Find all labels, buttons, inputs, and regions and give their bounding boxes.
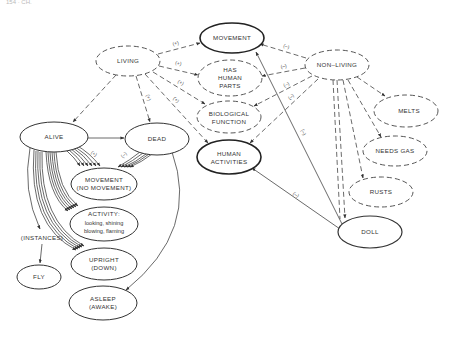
svg-text:(INSTANCES): (INSTANCES) <box>21 234 63 241</box>
edge-label-living-human-activities: (+) <box>172 95 181 104</box>
svg-text:ALIVE: ALIVE <box>44 133 63 140</box>
node-fly: FLY <box>17 265 61 289</box>
svg-text:looking, shining: looking, shining <box>85 220 124 226</box>
node-instances: (INSTANCES) <box>21 234 63 241</box>
node-movement-no-movement: MOVEMENT (NO MOVEMENT) <box>71 168 137 200</box>
svg-text:(AWAKE): (AWAKE) <box>89 303 117 310</box>
semantic-network-diagram: 154 · CH. <box>0 0 455 337</box>
svg-text:UPRIGHT: UPRIGHT <box>89 256 119 263</box>
svg-text:ACTIVITIES: ACTIVITIES <box>211 158 248 165</box>
svg-text:HAS: HAS <box>223 66 237 73</box>
edge-living-alive <box>73 75 116 122</box>
svg-text:BIOLOGICAL: BIOLOGICAL <box>209 110 250 117</box>
node-asleep-awake: ASLEEP (AWAKE) <box>69 286 137 320</box>
node-upright-down: UPRIGHT (DOWN) <box>71 248 137 280</box>
page-header: 154 · CH. <box>6 0 32 5</box>
edge-label-living-biological-function: (+) <box>177 78 186 86</box>
edge-non-living-doll-b <box>333 80 340 219</box>
svg-text:DOLL: DOLL <box>361 228 379 235</box>
edge-non-living-rusts <box>343 80 363 178</box>
svg-text:FLY: FLY <box>33 273 45 280</box>
svg-text:FUNCTION: FUNCTION <box>212 118 246 125</box>
svg-text:(NO MOVEMENT): (NO MOVEMENT) <box>77 184 132 191</box>
svg-text:NEEDS GAS: NEEDS GAS <box>376 147 415 154</box>
node-living: LIVING <box>96 46 160 76</box>
node-melts: MELTS <box>374 95 438 127</box>
svg-text:LIVING: LIVING <box>117 57 139 64</box>
edge-doll-human-activities <box>252 168 340 229</box>
svg-text:DEAD: DEAD <box>148 135 167 142</box>
edge-living-has-human-parts <box>159 66 198 75</box>
svg-text:blowing, flaming: blowing, flaming <box>84 228 124 234</box>
svg-text:PARTS: PARTS <box>219 82 241 89</box>
svg-text:RUSTS: RUSTS <box>370 188 392 195</box>
edge-non-living-has-human-parts <box>262 68 305 76</box>
svg-text:MOVEMENT: MOVEMENT <box>85 176 123 183</box>
edge-non-living-doll-a <box>337 80 345 218</box>
node-rusts: RUSTS <box>349 177 413 207</box>
node-alive: ALIVE <box>20 122 88 152</box>
edge-label-dead-movement: (–) <box>119 150 128 159</box>
svg-text:ACTIVITY:: ACTIVITY: <box>88 210 120 217</box>
edge-label-doll-human-activities: (–) <box>292 190 301 199</box>
edge-non-living-biological-function <box>254 76 312 106</box>
svg-text:MOVEMENT: MOVEMENT <box>213 34 251 41</box>
edge-label-living-has-human-parts: (+) <box>175 59 183 66</box>
node-biological-function: BIOLOGICAL FUNCTION <box>197 101 261 133</box>
node-needs-gas: NEEDS GAS <box>363 136 427 166</box>
edge-label-non-living-has-human-parts: (–) <box>280 62 287 69</box>
node-doll: DOLL <box>338 216 402 248</box>
edge-non-living-melts <box>357 77 385 96</box>
svg-text:MELTS: MELTS <box>398 107 420 114</box>
edge-instances-fly <box>40 244 42 263</box>
edge-label-living-movement: (+) <box>172 39 180 46</box>
svg-text:ASLEEP: ASLEEP <box>90 295 116 302</box>
node-movement-top: MOVEMENT <box>200 23 264 53</box>
svg-text:HUMAN: HUMAN <box>218 74 242 81</box>
node-non-living: NON–LIVING <box>305 50 369 80</box>
svg-text:HUMAN: HUMAN <box>217 150 241 157</box>
node-activity: ACTIVITY: looking, shining blowing, flam… <box>70 207 138 241</box>
node-has-human-parts: HAS HUMAN PARTS <box>198 60 262 96</box>
edge-label-living-dead: (+) <box>145 93 153 101</box>
edge-label-doll-movement: (–) <box>300 128 308 136</box>
edge-label-non-living-movement: (–) <box>283 42 291 50</box>
edge-label-non-living-human-activities: (–) <box>286 92 295 101</box>
node-dead: DEAD <box>125 123 189 155</box>
node-human-activities: HUMAN ACTIVITIES <box>197 140 261 174</box>
edge-label-non-living-biological-function: (–) <box>282 80 290 88</box>
svg-text:NON–LIVING: NON–LIVING <box>317 61 357 68</box>
svg-text:(DOWN): (DOWN) <box>91 264 117 271</box>
